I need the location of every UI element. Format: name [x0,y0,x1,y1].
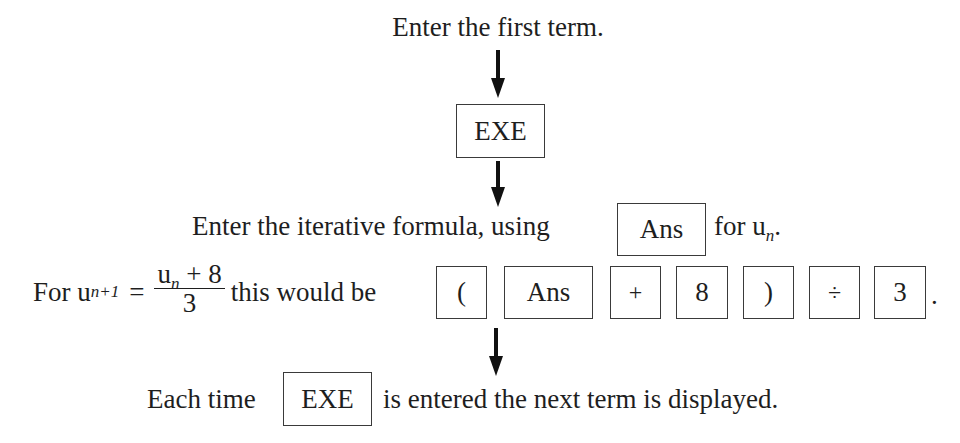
step3-prefix: Each time [147,384,256,414]
key-divide: ÷ [809,266,860,319]
key-eight: 8 [676,266,728,319]
fraction: un + 8 3 [154,260,224,317]
step-first-term: Enter the first term. [0,12,960,42]
key-plus: + [610,266,661,319]
step3-suffix: is entered the next term is displayed. [383,384,778,414]
example-period: . [931,280,938,310]
exe-key-repeat: EXE [283,372,372,426]
example-formula: For un+1 = un + 8 3 this would be [33,262,376,322]
step-iterative-formula: Enter the iterative formula, using [192,211,550,241]
ans-key: Ans [617,203,706,256]
step2-suffix: for un. [714,211,781,241]
key-close-paren: ) [743,266,794,319]
key-three: 3 [874,266,926,319]
step2-prefix: Enter the iterative formula, using [192,211,550,241]
exe-key: EXE [456,104,545,158]
key-ans: Ans [504,266,593,319]
key-open-paren: ( [436,266,487,319]
